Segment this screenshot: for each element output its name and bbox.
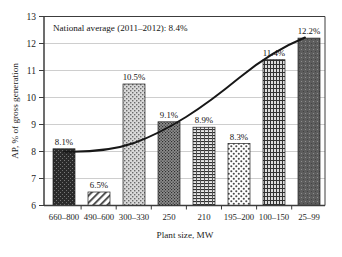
y-axis-title: AP, % of gross generation: [10, 63, 20, 159]
x-label-300-330: 300–330: [119, 212, 150, 222]
x-label-195-200: 195–200: [224, 212, 255, 222]
x-label-100-150: 100–150: [259, 212, 290, 222]
x-label-210: 210: [197, 212, 211, 222]
bar-210: [193, 127, 215, 205]
bar-100-150: [263, 60, 285, 206]
x-label-660-800: 660–800: [49, 212, 80, 222]
bar-value-100-150: 11.4%: [263, 48, 286, 58]
y-tick-label-7: 7: [31, 174, 36, 184]
bar-value-210: 8.9%: [195, 115, 214, 125]
chart-figure: 8.1% 6.5% 10.5% 9.1% 8.9% 8.3% 11.4% 12.…: [0, 0, 342, 257]
x-label-250: 250: [162, 212, 176, 222]
x-axis-category-labels: 660–800 490–600 300–330 250 210 195–200 …: [49, 212, 320, 222]
bar-195-200: [228, 143, 250, 205]
national-average-annotation: National average (2011–2012): 8.4%: [53, 23, 188, 33]
y-tick-label-11: 11: [27, 66, 36, 76]
y-tick-label-13: 13: [27, 12, 37, 22]
bar-490-600: [88, 192, 110, 206]
bar-value-660-800: 8.1%: [55, 137, 74, 147]
x-label-490-600: 490–600: [84, 212, 115, 222]
x-label-25-99: 25–99: [298, 212, 320, 222]
y-tick-label-8: 8: [31, 147, 36, 157]
y-tick-label-9: 9: [31, 120, 36, 130]
y-tick-label-6: 6: [31, 201, 36, 211]
y-tick-label-10: 10: [27, 93, 37, 103]
bar-25-99: [298, 38, 320, 205]
bar-value-25-99: 12.2%: [298, 26, 321, 36]
bar-660-800: [53, 149, 75, 206]
bar-250: [158, 122, 180, 206]
bar-value-250: 9.1%: [160, 110, 179, 120]
bar-value-490-600: 6.5%: [90, 180, 109, 190]
bar-value-300-330: 10.5%: [123, 72, 146, 82]
x-axis-title: Plant size, MW: [157, 230, 214, 240]
chart-canvas: 8.1% 6.5% 10.5% 9.1% 8.9% 8.3% 11.4% 12.…: [0, 0, 342, 257]
y-axis-tick-labels: 13 12 11 10 9 8 7 6: [27, 12, 37, 211]
bar-value-195-200: 8.3%: [230, 132, 249, 142]
y-tick-label-12: 12: [27, 39, 37, 49]
